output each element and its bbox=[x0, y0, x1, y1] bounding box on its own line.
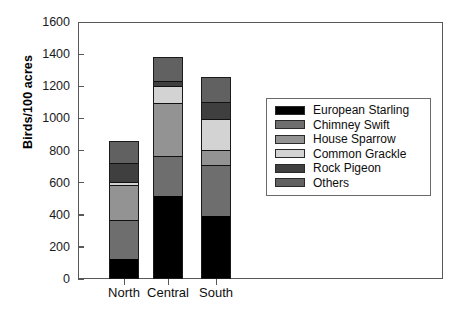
legend-label: Others bbox=[313, 177, 349, 189]
legend-item[interactable]: Rock Pigeon bbox=[275, 161, 424, 176]
legend-item[interactable]: European Starling bbox=[275, 103, 424, 118]
legend-label: Rock Pigeon bbox=[313, 162, 381, 174]
bar-segment[interactable] bbox=[153, 57, 183, 81]
bar-segment[interactable] bbox=[201, 77, 231, 101]
bar-segment[interactable] bbox=[201, 150, 231, 165]
legend-swatch-icon bbox=[275, 120, 305, 129]
bar-segment[interactable] bbox=[201, 119, 231, 150]
chart-legend: European StarlingChimney SwiftHouse Spar… bbox=[266, 98, 431, 196]
legend-item[interactable]: Chimney Swift bbox=[275, 118, 424, 133]
legend-swatch-icon bbox=[275, 149, 305, 158]
legend-swatch-icon bbox=[275, 135, 305, 144]
bar-segment[interactable] bbox=[109, 163, 139, 181]
stacked-bar bbox=[201, 77, 231, 279]
legend-swatch-icon bbox=[275, 106, 305, 115]
bar-segment[interactable] bbox=[153, 196, 183, 279]
stacked-bar-chart: Birds/100 acres 020040060080010001200140… bbox=[0, 0, 455, 324]
bar-segment[interactable] bbox=[201, 102, 231, 120]
bar-segment[interactable] bbox=[109, 141, 139, 163]
bar-segment[interactable] bbox=[109, 185, 139, 220]
stacked-bar bbox=[109, 141, 139, 279]
legend-label: European Starling bbox=[313, 104, 409, 116]
legend-item[interactable]: House Sparrow bbox=[275, 132, 424, 147]
bar-segment[interactable] bbox=[153, 156, 183, 196]
legend-label: Chimney Swift bbox=[313, 119, 390, 131]
legend-item[interactable]: Common Grackle bbox=[275, 147, 424, 162]
legend-swatch-icon bbox=[275, 178, 305, 187]
stacked-bar bbox=[153, 57, 183, 279]
x-tick-label-south: South bbox=[181, 285, 251, 300]
bar-segment[interactable] bbox=[153, 86, 183, 103]
legend-label: House Sparrow bbox=[313, 133, 396, 145]
legend-swatch-icon bbox=[275, 164, 305, 173]
bar-segment[interactable] bbox=[153, 103, 183, 156]
bar-segment[interactable] bbox=[109, 259, 139, 279]
legend-item[interactable]: Others bbox=[275, 176, 424, 191]
bar-segment[interactable] bbox=[201, 165, 231, 216]
bar-segment[interactable] bbox=[109, 220, 139, 259]
legend-label: Common Grackle bbox=[313, 148, 406, 160]
bar-segment[interactable] bbox=[201, 216, 231, 279]
